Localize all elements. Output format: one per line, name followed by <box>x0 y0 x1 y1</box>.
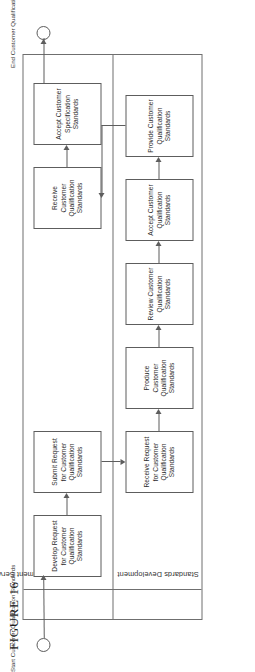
edge-produce-to-review-arrowhead <box>155 325 161 330</box>
edge-provide-to-receive-arrowhead <box>98 193 104 198</box>
edge-produce-to-review <box>158 330 159 347</box>
edge-receive-request-to-produce-arrowhead <box>155 409 161 414</box>
node-receive-standards[interactable]: Receive Customer Qualification Standards <box>33 167 101 229</box>
edge-receive-to-accept-specification-arrowhead <box>63 145 69 150</box>
edge-receive-request-to-produce <box>158 414 159 431</box>
edge-accept-to-provide-arrowhead <box>155 157 161 162</box>
figure-caption: FIGURE 16 <box>6 581 22 650</box>
node-develop-request[interactable]: Develop Request for Customer Qualificati… <box>33 515 101 577</box>
swimlane-frame: Order Management Service Owner Standards… <box>22 54 202 620</box>
edge-submit-to-receive-request <box>101 461 120 462</box>
edge-review-to-accept <box>158 246 159 263</box>
edge-receive-to-accept-specification <box>66 150 67 167</box>
edge-start-to-develop-arrowhead <box>40 575 46 580</box>
edge-develop-to-submit-arrowhead <box>63 493 69 498</box>
edge-start-to-develop <box>43 578 45 638</box>
node-provide-standards[interactable]: Provide Customer Qualification Standards <box>125 95 193 157</box>
node-review-standards[interactable]: Review Customer Qualification Standards <box>125 263 193 325</box>
lane-label-text: Standards Development <box>113 570 202 579</box>
edge-provide-to-receive-riser <box>101 125 125 126</box>
edge-provide-to-receive-standards <box>101 125 102 193</box>
lane-label-standards-development: Standards Development <box>112 530 202 619</box>
edge-accept-specification-to-end <box>43 38 44 84</box>
node-submit-request[interactable]: Submit Request for Customer Qualificatio… <box>33 431 101 493</box>
node-receive-request[interactable]: Receive Request for Customer Qualificati… <box>125 431 193 493</box>
edge-accept-to-provide <box>158 162 159 179</box>
edge-develop-to-submit <box>66 498 67 515</box>
start-terminator-circle <box>36 638 50 652</box>
node-accept-standards[interactable]: Accept Customer Qualification Standards <box>125 179 193 241</box>
edge-submit-to-receive-request-arrowhead <box>120 459 125 465</box>
node-accept-specification[interactable]: Accept Customer Specification Standards <box>33 83 101 145</box>
end-terminator-label: End Customer Qualification Standards <box>8 0 15 68</box>
node-produce-standards[interactable]: Produce Customer Qualification Standards <box>125 347 193 409</box>
edge-review-to-accept-arrowhead <box>155 241 161 246</box>
edge-accept-specification-to-end-arrowhead <box>40 39 46 44</box>
